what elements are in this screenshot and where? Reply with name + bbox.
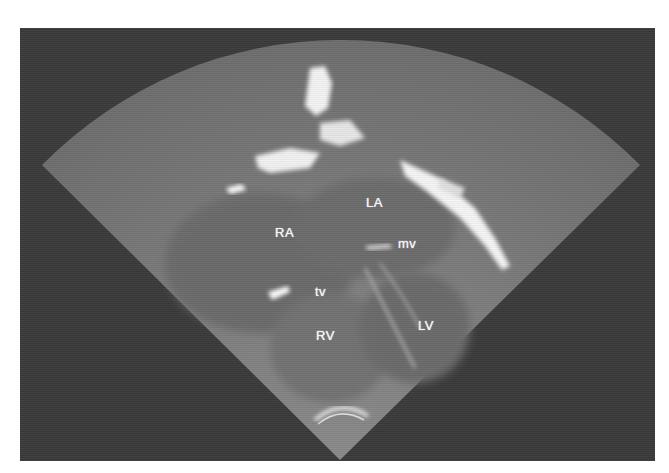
label-right-ventricle: RV [316, 328, 335, 343]
label-right-atrium: RA [275, 225, 294, 240]
label-mitral-valve: mv [398, 236, 416, 251]
ultrasound-frame [20, 28, 655, 461]
echo-sector [20, 28, 655, 461]
label-left-ventricle: LV [418, 318, 434, 333]
label-tricuspid-valve: tv [315, 284, 326, 299]
label-left-atrium: LA [366, 195, 383, 210]
